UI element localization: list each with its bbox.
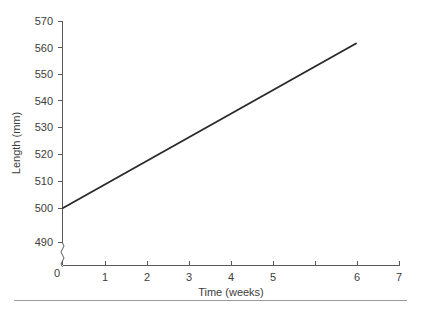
line-chart: 570 560 550 540 530 520 510 500 490 0 1 … [0,0,421,309]
series-line-length-over-time [63,44,356,209]
x-tick-label-2: 2 [144,271,150,283]
x-tick-label-4: 4 [228,271,234,283]
origin-label-0: 0 [54,267,60,279]
y-tick-label-510: 510 [35,175,53,187]
y-tick-label-560: 560 [35,42,53,54]
x-tick-label-7: 7 [396,271,402,283]
y-tick-label-540: 540 [35,95,53,107]
x-tick-label-6: 6 [354,271,360,283]
figure-container: 570 560 550 540 530 520 510 500 490 0 1 … [0,0,421,309]
y-tick-label-530: 530 [35,121,53,133]
y-tick-label-570: 570 [35,15,53,27]
x-axis-title: Time (weeks) [198,286,264,298]
y-tick-label-490: 490 [35,236,53,248]
x-tick-label-3: 3 [186,271,192,283]
y-tick-label-520: 520 [35,148,53,160]
y-axis-title: Length (mm) [10,112,22,174]
footer-divider [14,300,407,301]
y-tick-label-500: 500 [35,202,53,214]
x-tick-label-5: 5 [270,271,276,283]
x-tick-label-1: 1 [102,271,108,283]
y-tick-label-550: 550 [35,68,53,80]
